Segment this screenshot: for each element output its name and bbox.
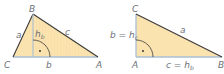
right-angle-dot <box>142 50 144 52</box>
side-b-label: b <box>46 60 52 70</box>
side-c-equation-label: c = hb <box>166 60 194 71</box>
vertex-a-label: A <box>131 60 138 70</box>
vertex-c-label: C <box>132 4 139 14</box>
vertex-b-label: B <box>218 60 224 70</box>
vertex-c-label: C <box>4 60 11 70</box>
side-a-label: a <box>16 30 22 40</box>
acute-triangle-left: B C A a b c hb <box>4 4 102 70</box>
triangle-diagrams: B C A a b c hb C A B a b = hc c = hb <box>0 0 224 74</box>
vertex-a-label: A <box>95 60 102 70</box>
side-b-equation-label: b = hc <box>110 30 139 41</box>
side-a-label: a <box>180 25 186 35</box>
right-triangle-right: C A B a b = hc c = hb <box>110 4 224 71</box>
side-c-label: c <box>65 27 70 37</box>
right-angle-dot <box>39 50 41 52</box>
vertex-b-label: B <box>29 4 35 14</box>
